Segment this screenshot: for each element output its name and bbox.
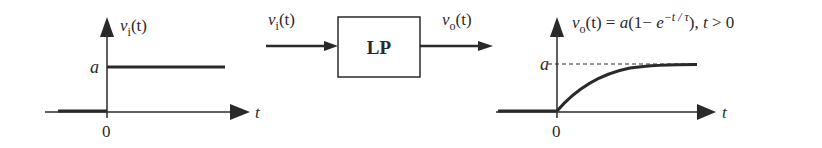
input-y-axis-arrowhead-icon (100, 17, 114, 37)
lowpass-filter-label: LP (367, 37, 392, 58)
block-input-label: vi(t) (268, 10, 295, 33)
output-exponential-curve (557, 65, 697, 112)
output-origin-label: 0 (552, 122, 561, 141)
output-x-label: t (722, 103, 728, 122)
input-y-label: vi(t) (120, 16, 147, 39)
input-level-label: a (90, 57, 99, 77)
block-input-arrowhead-icon (324, 41, 338, 51)
output-formula: vo(t) = a(1− e−t / τ), t > 0 (572, 10, 734, 36)
output-response-plot: a 0 t vo(t) = a(1− e−t / τ), t > 0 (496, 10, 734, 141)
block-output-arrowhead-icon (478, 41, 493, 51)
input-origin-label: 0 (102, 122, 111, 141)
output-y-axis-arrowhead-icon (550, 17, 564, 37)
lowpass-step-response-diagram: vi(t) a 0 t LP vi(t) vo(t) a 0 t (0, 0, 822, 148)
output-x-axis-arrowhead-icon (697, 104, 716, 120)
input-step-plot: vi(t) a 0 t (45, 16, 261, 141)
block-output-label: vo(t) (442, 10, 472, 33)
input-x-axis-arrowhead-icon (230, 104, 250, 120)
output-level-label: a (540, 54, 549, 74)
input-x-label: t (255, 103, 261, 122)
lowpass-block-diagram: LP vi(t) vo(t) (266, 10, 493, 77)
